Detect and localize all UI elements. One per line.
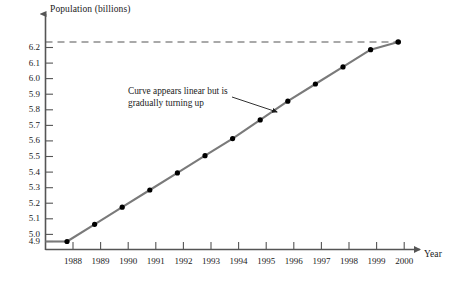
chart-annotation: Curve appears linear but is gradually tu… bbox=[128, 86, 228, 109]
x-tick-label: 1990 bbox=[113, 256, 143, 266]
y-tick-label: 5.8 bbox=[18, 104, 40, 114]
x-tick-label: 1996 bbox=[279, 256, 309, 266]
data-point bbox=[147, 187, 152, 192]
x-axis-ticks bbox=[73, 242, 404, 250]
data-point bbox=[395, 39, 401, 45]
y-tick-label: 5.2 bbox=[18, 198, 40, 208]
x-tick-label: 1997 bbox=[306, 256, 336, 266]
x-tick-label: 2000 bbox=[389, 256, 419, 266]
population-curve bbox=[67, 42, 398, 242]
data-point bbox=[258, 117, 263, 122]
chart-plot-area bbox=[0, 0, 459, 282]
annotation-line-1: Curve appears linear but is bbox=[128, 86, 228, 98]
y-tick-label: 5.6 bbox=[18, 135, 40, 145]
y-tick-label: 5.4 bbox=[18, 167, 40, 177]
y-tick-label: 5.3 bbox=[18, 182, 40, 192]
x-axis-title: Year bbox=[424, 249, 442, 259]
y-tick-label: 5.5 bbox=[18, 151, 40, 161]
y-tick-label: 6.0 bbox=[18, 73, 40, 83]
population-chart-figure: Population (billions) Year 6.2 6.1 6.0 5… bbox=[0, 0, 459, 282]
data-point bbox=[175, 170, 180, 175]
x-tick-label: 1998 bbox=[334, 256, 364, 266]
data-point bbox=[92, 222, 97, 227]
data-point bbox=[230, 136, 235, 141]
x-tick-label: 1988 bbox=[58, 256, 88, 266]
x-tick-label: 1992 bbox=[168, 256, 198, 266]
x-tick-label: 1989 bbox=[86, 256, 116, 266]
annotation-line-2: gradually turning up bbox=[128, 98, 228, 110]
data-point bbox=[285, 99, 290, 104]
annotation-leader-line bbox=[232, 97, 277, 112]
y-tick-label: 6.2 bbox=[18, 42, 40, 52]
data-point bbox=[368, 47, 373, 52]
y-tick-label: 5.7 bbox=[18, 120, 40, 130]
data-point-markers bbox=[64, 39, 401, 244]
data-point bbox=[202, 153, 207, 158]
data-point bbox=[340, 64, 345, 69]
y-axis-title: Population (billions) bbox=[50, 4, 130, 14]
y-axis-ticks bbox=[46, 48, 54, 242]
x-tick-label: 1999 bbox=[362, 256, 392, 266]
y-tick-label: 4.9 bbox=[18, 236, 40, 246]
data-point bbox=[313, 81, 318, 86]
x-tick-label: 1994 bbox=[224, 256, 254, 266]
data-point bbox=[120, 205, 125, 210]
y-tick-label: 5.1 bbox=[18, 213, 40, 223]
data-point bbox=[64, 239, 69, 244]
x-tick-label: 1991 bbox=[141, 256, 171, 266]
y-tick-label: 5.9 bbox=[18, 89, 40, 99]
x-tick-label: 1993 bbox=[196, 256, 226, 266]
y-tick-label: 6.1 bbox=[18, 58, 40, 68]
x-tick-label: 1995 bbox=[251, 256, 281, 266]
